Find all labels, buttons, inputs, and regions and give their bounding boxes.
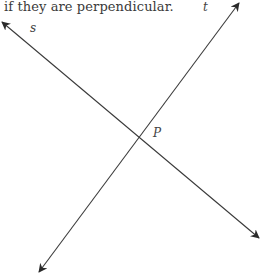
line-s xyxy=(2,22,259,238)
label-p: P xyxy=(153,126,161,140)
intersecting-lines-diagram xyxy=(0,0,260,276)
line-t xyxy=(39,3,239,272)
label-s: s xyxy=(30,21,36,35)
label-t: t xyxy=(203,0,208,14)
